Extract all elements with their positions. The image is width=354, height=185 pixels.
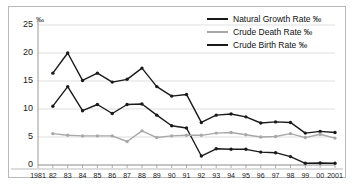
- y-axis-tick-label: 15: [13, 75, 33, 85]
- legend-line-swatch: [207, 44, 228, 46]
- x-axis-tick-label: 2001: [322, 172, 348, 179]
- legend-label: Crude Birth Rate ‰: [233, 40, 307, 50]
- legend-line-swatch: [207, 18, 228, 20]
- legend-label: Natural Growth Rate ‰: [233, 14, 321, 24]
- y-axis-tick-label: 25: [13, 19, 33, 29]
- y-axis-tick-label: 0: [13, 159, 33, 169]
- legend-line-swatch: [207, 31, 228, 33]
- chart-container: ‰ 05101520251981828384858687888990919293…: [8, 6, 346, 178]
- legend-item: Crude Death Rate ‰: [207, 26, 312, 37]
- legend-label: Crude Death Rate ‰: [233, 27, 312, 37]
- legend-item: Natural Growth Rate ‰: [207, 13, 321, 24]
- y-axis-tick-label: 10: [13, 103, 33, 113]
- legend-item: Crude Birth Rate ‰: [207, 39, 307, 50]
- y-axis-tick-label: 20: [13, 47, 33, 57]
- y-axis-tick-label: 5: [13, 131, 33, 141]
